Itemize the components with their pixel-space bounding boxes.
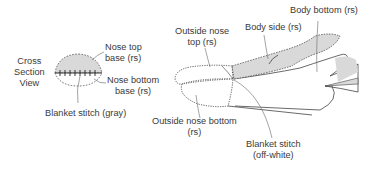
outside-nose-bottom-line2: (rs)	[152, 127, 237, 138]
cross-section-title-line3: View	[14, 78, 45, 89]
nose-top-base-line2: base (rs)	[105, 53, 142, 64]
cross-section-title: Cross Section View	[14, 56, 45, 89]
label-blanket-stitch-off-white: Blanket stitch (off-white)	[246, 139, 301, 161]
cross-section-shape	[55, 52, 106, 103]
label-body-bottom: Body bottom (rs)	[290, 5, 358, 16]
nose-top-base-line1: Nose top	[105, 42, 142, 53]
label-body-side: Body side (rs)	[245, 22, 302, 33]
label-nose-top-base: Nose top base (rs)	[105, 42, 142, 64]
blanket-stitch-off-white-line2: (off-white)	[246, 150, 301, 161]
outside-nose-top-line2: top (rs)	[175, 37, 229, 48]
label-blanket-stitch-gray: Blanket stitch (gray)	[45, 108, 126, 119]
nose-bottom-base-line1: Nose bottom	[107, 75, 159, 86]
label-outside-nose-bottom: Outside nose bottom (rs)	[152, 116, 237, 138]
outside-nose-bottom-line1: Outside nose bottom	[152, 116, 237, 127]
blanket-stitch-off-white-line1: Blanket stitch	[246, 139, 301, 150]
cross-section-title-line1: Cross	[14, 56, 45, 67]
label-outside-nose-top: Outside nose top (rs)	[175, 26, 229, 48]
outside-nose-top-line1: Outside nose	[175, 26, 229, 37]
label-nose-bottom-base: Nose bottom base (rs)	[107, 75, 159, 97]
diagram-canvas: Cross Section View Nose top base (rs) No…	[0, 0, 368, 171]
cross-section-title-line2: Section	[14, 67, 45, 78]
nose-bottom-base-line2: base (rs)	[107, 86, 159, 97]
